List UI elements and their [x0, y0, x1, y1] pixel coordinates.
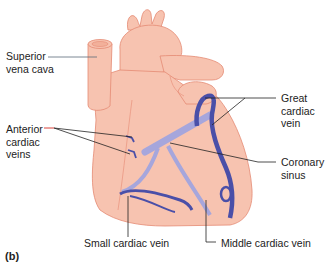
label-superior-vena-cava: Superior vena cava: [6, 50, 54, 75]
label-anterior-cardiac-veins: Anterior cardiac veins: [6, 123, 43, 161]
label-small-cardiac-vein: Small cardiac vein: [84, 237, 169, 250]
heart-diagram: [0, 0, 331, 263]
label-middle-cardiac-vein: Middle cardiac vein: [221, 237, 311, 250]
heart-illustration: [88, 10, 252, 226]
label-great-cardiac-vein: Great cardiac vein: [281, 92, 315, 130]
label-coronary-sinus: Coronary sinus: [281, 156, 324, 181]
panel-label: (b): [5, 250, 19, 262]
